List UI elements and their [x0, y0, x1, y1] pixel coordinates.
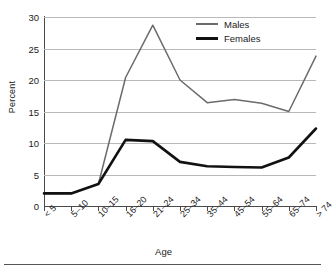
legend-item-females: Females: [196, 31, 306, 45]
footer-divider: [4, 264, 321, 265]
legend: Males Females: [196, 17, 306, 45]
legend-label-females: Females: [224, 33, 260, 44]
y-tick-label-25: 25: [0, 43, 39, 54]
legend-swatch-males-icon: [196, 23, 218, 25]
y-tick-label-30: 30: [0, 12, 39, 23]
legend-item-males: Males: [196, 17, 306, 31]
x-tick-label-10: > 74: [314, 199, 334, 219]
y-tick-label-20: 20: [0, 75, 39, 86]
legend-label-males: Males: [224, 19, 249, 30]
series-line-males: [44, 25, 316, 193]
y-tick-label-0: 0: [0, 201, 39, 212]
series-line-females: [44, 129, 316, 194]
y-tick-label-10: 10: [0, 138, 39, 149]
y-tick-label-15: 15: [0, 106, 39, 117]
legend-swatch-females-icon: [196, 37, 218, 40]
series-lines: [44, 17, 316, 206]
y-tick-label-5: 5: [0, 169, 39, 180]
plot-area: [44, 17, 316, 206]
x-axis-title: Age: [0, 246, 327, 257]
